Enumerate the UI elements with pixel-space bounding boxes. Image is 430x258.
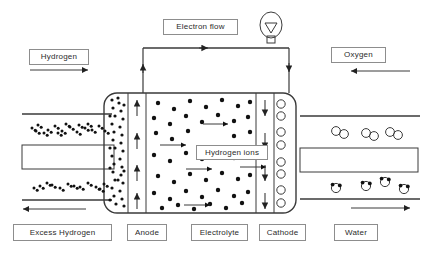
diagram-canvas (0, 0, 430, 258)
label-electron-flow: Electron flow (163, 19, 238, 35)
label-oxygen-text: Oxygen (344, 51, 373, 59)
light-bulb-icon (260, 12, 282, 43)
oxygen-channel-divider (300, 148, 418, 172)
label-anode-text: Anode (135, 229, 159, 237)
hydrogen-ion-arrows (160, 124, 266, 205)
hydrogen-particles-lower (33, 182, 109, 193)
fuel-cell-diagram: Hydrogen Electron flow Oxygen Hydrogen i… (0, 0, 430, 258)
label-electrolyte-text: Electrolyte (200, 229, 240, 237)
label-excess-hydrogen-text: Excess Hydrogen (30, 229, 96, 237)
bulb-base (267, 36, 275, 43)
label-hydrogen: Hydrogen (29, 49, 89, 65)
cathode-oxygen-molecules (277, 100, 285, 207)
anode-particles (108, 96, 125, 207)
label-hydrogen-text: Hydrogen (41, 53, 77, 61)
label-electrolyte: Electrolyte (191, 224, 248, 241)
label-cathode: Cathode (259, 224, 306, 241)
label-hydrogen-ions: Hydrogen ions (196, 145, 268, 160)
label-cathode-text: Cathode (267, 229, 299, 237)
label-water-text: Water (345, 229, 367, 237)
hydrogen-channel-divider (22, 145, 114, 169)
bulb-filament (265, 23, 277, 33)
water-molecules (331, 177, 410, 194)
hydrogen-particles-upper (31, 123, 110, 137)
gas-flow-arrows (23, 70, 410, 209)
label-water: Water (334, 224, 378, 241)
external-circuit (143, 48, 289, 93)
label-oxygen: Oxygen (331, 47, 386, 63)
oxygen-channel-molecules (332, 127, 403, 141)
bulb-glass (260, 12, 282, 38)
label-hydrogen-ions-text: Hydrogen ions (205, 149, 259, 157)
label-excess-hydrogen: Excess Hydrogen (13, 224, 112, 241)
label-electron-flow-text: Electron flow (176, 23, 224, 31)
label-anode: Anode (127, 224, 167, 241)
